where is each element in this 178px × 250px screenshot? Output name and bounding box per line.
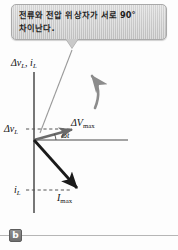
- footer-divider: [0, 235, 178, 236]
- figure-part-badge: b: [9, 229, 22, 242]
- current-phasor-arrow: [34, 140, 77, 188]
- voltage-axis-subscript: L: [14, 128, 18, 135]
- axis-top-label: ΔvL, iL: [11, 58, 37, 70]
- phasor-diagram-figure: 전류와 전압 위상자가 서로 90° 차이난다.: [0, 0, 178, 250]
- current-axis-subscript: L: [17, 189, 21, 196]
- current-phasor-subscript: max: [60, 197, 72, 204]
- voltage-axis-label: ΔvL: [4, 124, 18, 136]
- callout-leader-line: [40, 50, 72, 133]
- axis-top-sub-l2: L: [33, 62, 37, 69]
- curved-emphasis-arrow-icon: [92, 76, 98, 108]
- voltage-axis-symbol: Δv: [4, 123, 14, 134]
- voltage-phasor-subscript: max: [83, 122, 95, 129]
- axis-top-separator: , i: [25, 57, 33, 68]
- omega-t-label: ωt: [61, 131, 69, 140]
- current-axis-label: iL: [14, 185, 21, 197]
- axis-top-delta-v: Δv: [11, 57, 21, 68]
- voltage-phasor-label: ΔVmax: [71, 118, 95, 130]
- current-phasor-label: Imax: [57, 193, 72, 205]
- voltage-phasor-symbol: ΔV: [71, 117, 83, 128]
